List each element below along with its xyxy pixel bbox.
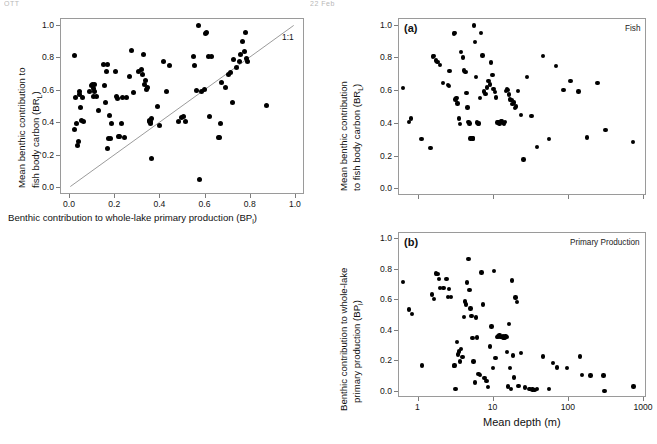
- axis-tick: [394, 360, 398, 361]
- axis-tick-label: 0.6: [199, 199, 211, 209]
- data-point: [471, 136, 475, 140]
- data-point: [183, 119, 188, 124]
- panel-b-y-axis-title-line1: Benthic contribution to whole-lake: [338, 268, 349, 411]
- data-point: [507, 322, 511, 326]
- data-point: [196, 23, 201, 28]
- data-point: [407, 307, 411, 311]
- data-point: [603, 128, 607, 132]
- data-point: [204, 30, 209, 35]
- panel-b-plot-area: [398, 232, 646, 397]
- axis-tick-label: 0.0: [63, 199, 75, 209]
- data-point: [578, 354, 582, 358]
- axis-tick-label: 0.2: [108, 199, 120, 209]
- axis-tick: [394, 90, 398, 91]
- data-point: [473, 380, 477, 384]
- data-point: [264, 103, 269, 108]
- data-point: [509, 387, 513, 391]
- data-point: [525, 75, 529, 79]
- data-point: [602, 389, 606, 393]
- axis-tick-label: 0.6: [380, 85, 392, 95]
- data-point: [508, 366, 512, 370]
- axis-tick: [114, 194, 115, 198]
- data-point: [459, 347, 463, 351]
- data-point: [217, 135, 222, 140]
- data-point: [547, 137, 551, 141]
- axis-tick: [418, 195, 419, 199]
- data-point: [75, 143, 80, 148]
- data-point: [507, 92, 511, 96]
- axis-tick: [394, 391, 398, 392]
- data-point: [234, 65, 239, 70]
- data-point: [465, 280, 469, 284]
- data-point: [462, 315, 466, 319]
- axis-tick-label: 1.0: [380, 20, 392, 30]
- panel-a-y-axis-title-line1: Mean benthic contribution: [338, 81, 349, 191]
- data-point: [511, 353, 515, 357]
- data-point: [547, 387, 551, 391]
- data-point: [479, 270, 483, 274]
- data-point: [453, 387, 457, 391]
- data-point: [481, 302, 485, 306]
- data-point: [223, 85, 228, 90]
- data-point: [561, 88, 565, 92]
- data-point: [469, 314, 473, 318]
- left-y-axis-title-line1: Mean benthic contribution to: [16, 67, 27, 188]
- data-point: [474, 315, 478, 319]
- axis-tick: [56, 187, 60, 188]
- data-point: [458, 122, 462, 126]
- data-point: [141, 52, 146, 57]
- data-point: [505, 350, 509, 354]
- data-point: [576, 89, 580, 93]
- data-point: [218, 121, 223, 126]
- data-point: [454, 96, 458, 100]
- panel-a-note: Fish: [625, 24, 640, 33]
- data-point: [585, 135, 589, 139]
- axis-tick: [394, 330, 398, 331]
- data-point: [76, 139, 81, 144]
- axis-tick: [394, 188, 398, 189]
- data-point: [515, 300, 519, 304]
- data-point: [78, 105, 83, 110]
- data-point: [457, 116, 461, 120]
- data-point: [460, 355, 464, 359]
- data-point: [231, 57, 236, 62]
- data-point: [80, 95, 85, 100]
- data-point: [541, 354, 545, 358]
- data-point: [119, 121, 124, 126]
- data-point: [488, 82, 492, 86]
- data-point: [197, 177, 202, 182]
- axis-tick-label: 0.8: [244, 199, 256, 209]
- data-point: [164, 89, 169, 94]
- axis-tick: [56, 155, 60, 156]
- data-point: [102, 83, 107, 88]
- data-point: [181, 114, 186, 119]
- axis-tick-label: 0.6: [380, 294, 392, 304]
- axis-tick: [568, 397, 569, 401]
- data-point: [228, 70, 233, 75]
- data-point: [555, 365, 559, 369]
- data-point: [167, 63, 172, 68]
- data-point: [580, 373, 584, 377]
- data-point: [207, 114, 212, 119]
- data-point: [529, 114, 533, 118]
- header-right-text: 22 Feb: [310, 0, 335, 9]
- data-point: [430, 292, 434, 296]
- data-point: [478, 96, 482, 100]
- axis-tick: [394, 123, 398, 124]
- header-left-text: OTT: [4, 0, 20, 9]
- data-point: [105, 62, 110, 67]
- data-point: [452, 363, 456, 367]
- panel-a-y-axis-title-line2: to fish body carbon (BRL): [351, 84, 364, 191]
- axis-tick: [205, 194, 206, 198]
- data-point: [92, 89, 97, 94]
- data-point: [519, 351, 523, 355]
- data-point: [470, 336, 474, 340]
- data-point: [464, 91, 468, 95]
- data-point: [432, 297, 436, 301]
- data-point: [535, 145, 539, 149]
- axis-tick: [568, 195, 569, 199]
- axis-tick-label: 0.8: [380, 264, 392, 274]
- data-point: [565, 366, 569, 370]
- data-point: [149, 156, 154, 161]
- data-point: [477, 121, 481, 125]
